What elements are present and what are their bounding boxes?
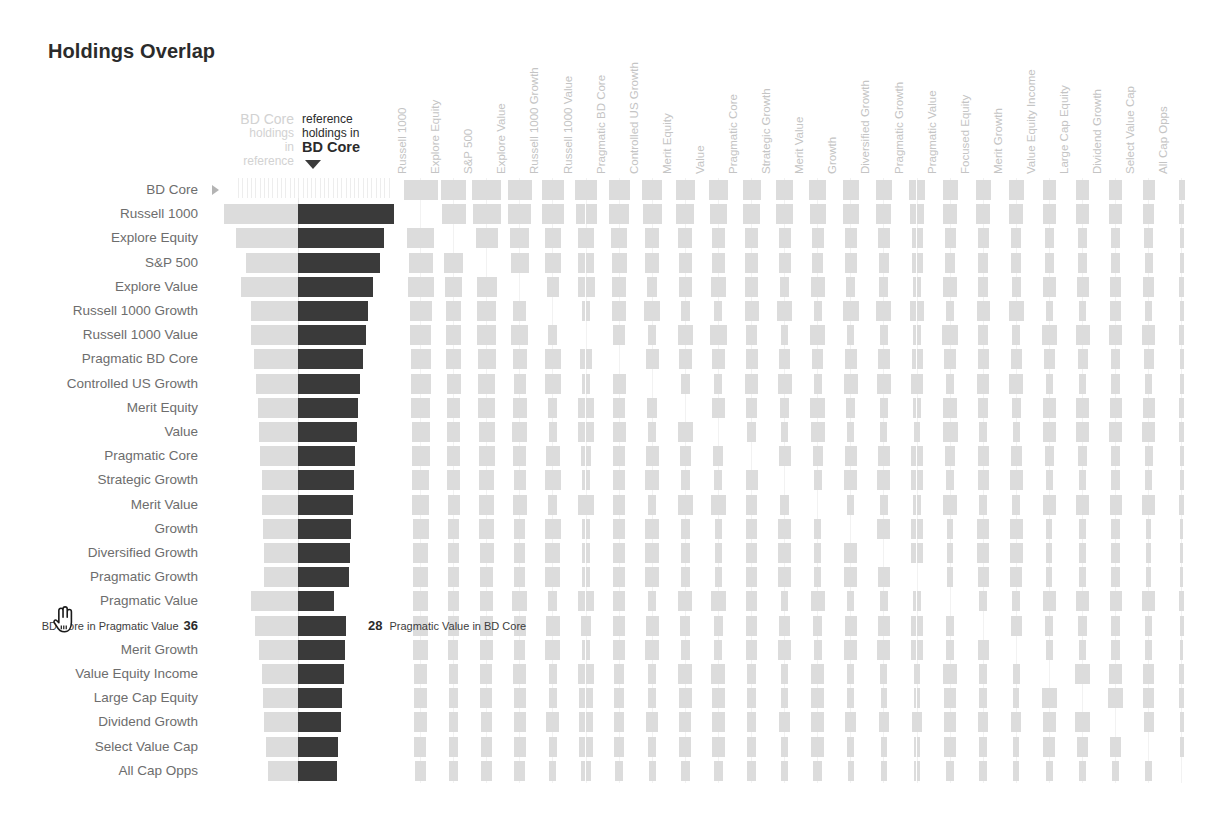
- overlap-bar[interactable]: [519, 688, 526, 708]
- column-header-value-equity-income[interactable]: Value Equity Income: [1025, 69, 1037, 174]
- overlap-bar[interactable]: [1115, 349, 1120, 369]
- overlap-bar[interactable]: [586, 446, 592, 466]
- overlap-bar[interactable]: [519, 712, 525, 732]
- overlap-bar[interactable]: [811, 422, 818, 442]
- overlap-bar[interactable]: [883, 228, 889, 248]
- overlap-bar[interactable]: [817, 519, 821, 539]
- overlap-bar[interactable]: [486, 446, 494, 466]
- overlap-bar[interactable]: [586, 616, 591, 636]
- overlap-bar[interactable]: [586, 664, 594, 684]
- overlap-bar[interactable]: [1082, 470, 1086, 490]
- overlap-bar[interactable]: [298, 470, 354, 490]
- overlap-bar[interactable]: [917, 228, 923, 248]
- overlap-bar[interactable]: [1049, 712, 1056, 732]
- overlap-bar[interactable]: [685, 228, 693, 248]
- overlap-bar[interactable]: [950, 543, 954, 563]
- overlap-bar[interactable]: [420, 301, 432, 321]
- overlap-bar[interactable]: [298, 761, 337, 781]
- overlap-bar[interactable]: [412, 446, 420, 466]
- overlap-bar[interactable]: [298, 737, 338, 757]
- overlap-bar[interactable]: [1115, 228, 1120, 248]
- overlap-bar[interactable]: [542, 204, 552, 224]
- overlap-bar[interactable]: [477, 325, 486, 345]
- overlap-bar[interactable]: [453, 688, 458, 708]
- column-header-explore-value[interactable]: Explore Value: [495, 103, 507, 174]
- overlap-bar[interactable]: [718, 664, 726, 684]
- overlap-bar[interactable]: [652, 640, 660, 660]
- overlap-bar[interactable]: [420, 398, 430, 418]
- overlap-bar[interactable]: [579, 712, 586, 732]
- overlap-bar[interactable]: [1016, 228, 1022, 248]
- overlap-bar[interactable]: [453, 495, 460, 515]
- overlap-bar[interactable]: [1148, 519, 1151, 539]
- overlap-bar[interactable]: [883, 277, 888, 297]
- overlap-bar[interactable]: [619, 228, 627, 248]
- overlap-bar[interactable]: [453, 301, 461, 321]
- overlap-bar[interactable]: [1049, 519, 1053, 539]
- overlap-bar[interactable]: [453, 422, 460, 442]
- overlap-bar[interactable]: [784, 180, 793, 200]
- overlap-bar[interactable]: [298, 349, 363, 369]
- overlap-bar[interactable]: [619, 519, 625, 539]
- overlap-bar[interactable]: [817, 640, 822, 660]
- overlap-bar[interactable]: [412, 422, 420, 442]
- overlap-bar[interactable]: [446, 349, 453, 369]
- overlap-bar[interactable]: [1082, 640, 1086, 660]
- overlap-bar[interactable]: [943, 180, 950, 200]
- overlap-bar[interactable]: [943, 277, 950, 297]
- overlap-bar[interactable]: [519, 204, 531, 224]
- overlap-bar[interactable]: [1082, 446, 1087, 466]
- overlap-bar[interactable]: [511, 253, 519, 273]
- overlap-bar[interactable]: [552, 204, 563, 224]
- overlap-bar[interactable]: [1082, 301, 1086, 321]
- overlap-bar[interactable]: [817, 470, 822, 490]
- overlap-bar[interactable]: [246, 253, 298, 273]
- overlap-bar[interactable]: [453, 519, 459, 539]
- panel-pragmatic-core[interactable]: Pragmatic Core: [739, 178, 765, 783]
- overlap-bar[interactable]: [950, 325, 958, 345]
- overlap-bar[interactable]: [420, 495, 429, 515]
- overlap-bar[interactable]: [479, 446, 487, 466]
- overlap-bar[interactable]: [810, 204, 818, 224]
- overlap-bar[interactable]: [784, 567, 791, 587]
- overlap-bar[interactable]: [810, 398, 817, 418]
- overlap-bar[interactable]: [519, 301, 526, 321]
- overlap-bar[interactable]: [850, 325, 854, 345]
- overlap-bar[interactable]: [262, 470, 298, 490]
- overlap-bar[interactable]: [1049, 543, 1053, 563]
- overlap-bar[interactable]: [420, 446, 430, 466]
- column-header-pragmatic-core[interactable]: Pragmatic Core: [727, 94, 739, 174]
- overlap-bar[interactable]: [552, 664, 557, 684]
- overlap-bar[interactable]: [552, 446, 560, 466]
- overlap-bar[interactable]: [1082, 277, 1089, 297]
- overlap-bar[interactable]: [645, 470, 652, 490]
- overlap-bar[interactable]: [917, 398, 922, 418]
- overlap-bar[interactable]: [817, 325, 825, 345]
- overlap-bar[interactable]: [1042, 688, 1049, 708]
- overlap-bar[interactable]: [983, 591, 988, 611]
- overlap-bar[interactable]: [1181, 204, 1184, 224]
- overlap-bar[interactable]: [983, 567, 989, 587]
- overlap-bar[interactable]: [446, 301, 453, 321]
- overlap-bar[interactable]: [453, 277, 462, 297]
- overlap-bar[interactable]: [850, 204, 858, 224]
- overlap-bar[interactable]: [542, 180, 553, 200]
- overlap-bar[interactable]: [743, 204, 751, 224]
- overlap-bar[interactable]: [652, 470, 660, 490]
- overlap-bar[interactable]: [784, 519, 791, 539]
- overlap-bar[interactable]: [1016, 374, 1023, 394]
- column-header-russell-1000[interactable]: Russell 1000: [396, 108, 408, 174]
- overlap-bar[interactable]: [1115, 688, 1123, 708]
- overlap-bar[interactable]: [751, 204, 760, 224]
- overlap-bar[interactable]: [619, 398, 626, 418]
- overlap-bar[interactable]: [678, 495, 685, 515]
- overlap-bar[interactable]: [950, 228, 956, 248]
- overlap-bar[interactable]: [619, 543, 625, 563]
- overlap-bar[interactable]: [453, 737, 458, 757]
- overlap-bar[interactable]: [1049, 616, 1054, 636]
- overlap-bar[interactable]: [883, 640, 890, 660]
- overlap-bar[interactable]: [1181, 688, 1184, 708]
- overlap-bar[interactable]: [420, 253, 433, 273]
- overlap-bar[interactable]: [486, 398, 495, 418]
- overlap-bar[interactable]: [784, 277, 789, 297]
